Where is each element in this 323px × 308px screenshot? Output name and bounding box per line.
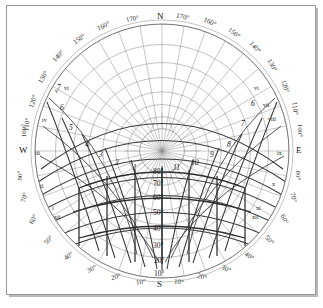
roman-label-vi: vi <box>64 85 69 91</box>
roman-label-vii: vii <box>263 102 269 108</box>
hour-label-4: 4 <box>85 141 89 149</box>
roman-label-vi-east: vi <box>254 85 259 91</box>
altitude-label-70: 70° <box>153 180 164 188</box>
sun-path-chart <box>7 6 317 296</box>
sun-path-diagram-page: N E S W 170° 160° 150° 140° 130° 120° 11… <box>0 0 323 308</box>
azimuth-label-se-80: 80° <box>294 171 301 181</box>
roman-label-v: v <box>55 88 58 94</box>
cardinal-east: E <box>296 146 302 155</box>
azimuth-label-sw-10: 10° <box>136 278 147 286</box>
hour-label-10: 10 <box>191 159 199 167</box>
altitude-label-80: 80° <box>153 168 164 176</box>
altitude-label-60: 60° <box>153 194 164 202</box>
altitude-label-50: 50° <box>153 209 164 217</box>
azimuth-label-ne-100: 100° <box>296 124 303 137</box>
diagram-frame: N E S W 170° 160° 150° 140° 130° 120° 11… <box>6 5 316 295</box>
roman-label-ii: ii <box>40 183 43 189</box>
hour-label-5: 5 <box>69 124 73 132</box>
hour-label-1: 1 <box>133 164 137 172</box>
azimuth-label-sw-80: 80° <box>17 171 24 181</box>
roman-label-iii: iii <box>35 150 40 156</box>
cardinal-north: N <box>157 12 164 21</box>
azimuth-label-nw-100: 100° <box>21 124 28 137</box>
azimuth-label-se-70: 70° <box>288 192 297 203</box>
roman-label-xii-east: xii <box>252 214 258 220</box>
roman-label-viii: viii <box>268 116 276 122</box>
altitude-label-10: 10° <box>154 270 165 278</box>
hour-label-2: 2 <box>115 159 119 167</box>
hour-label-7-east: 7 <box>241 120 245 128</box>
hour-label-3: 3 <box>99 151 103 159</box>
roman-label-iv: iv <box>42 117 47 123</box>
altitude-label-40: 40° <box>153 225 164 233</box>
roman-label-xii-west: xii <box>54 214 60 220</box>
hour-label-11: 11 <box>173 164 180 172</box>
cardinal-south: S <box>157 280 162 289</box>
altitude-label-20: 20° <box>154 257 165 265</box>
altitude-label-30: 30° <box>153 242 164 250</box>
hour-label-8: 8 <box>227 141 231 149</box>
hour-label-9: 9 <box>210 151 214 159</box>
roman-label-ix: ix <box>277 150 282 156</box>
hour-label-6-east: 6 <box>251 100 255 108</box>
hour-label-6: 6 <box>60 104 64 112</box>
roman-label-x: x <box>272 181 275 187</box>
azimuth-label-ne-110: 110° <box>290 102 299 116</box>
grid-layer <box>35 24 289 278</box>
roman-label-i: i <box>52 205 54 211</box>
roman-label-xi: xi <box>256 205 261 211</box>
cardinal-west: W <box>19 146 28 155</box>
azimuth-label-se-10: 10° <box>174 278 185 286</box>
